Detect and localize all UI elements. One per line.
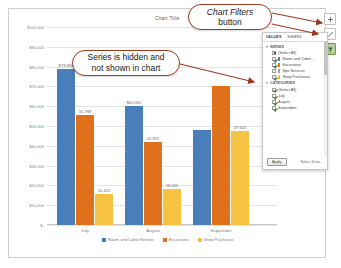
bar[interactable]: 55,788 — [76, 115, 94, 225]
bar-value-label: 15,455 — [98, 188, 111, 193]
series-color-swatch — [278, 69, 280, 73]
filter-row-label: August — [278, 100, 290, 104]
gridline — [47, 225, 277, 226]
checkbox[interactable] — [272, 88, 276, 92]
filter-row-label: July — [278, 94, 285, 98]
y-axis-tick: $90,000 — [29, 44, 44, 49]
tab-values[interactable]: VALUES — [266, 35, 282, 39]
plus-icon — [327, 16, 334, 23]
chart-elements-icon[interactable] — [324, 13, 336, 25]
select-data-link[interactable]: Select Data... — [300, 160, 323, 164]
legend-swatch — [102, 238, 106, 242]
y-axis-tick: $- — [40, 223, 44, 228]
filter-row-label: (Select All) — [278, 51, 296, 55]
y-axis-tick: $20,000 — [29, 183, 44, 188]
y-axis-tick: $70,000 — [29, 84, 44, 89]
y-axis-tick: $100,000 — [27, 25, 44, 30]
callout-hidden-series-line2: not shown in chart — [73, 63, 179, 74]
filter-section-title: CATEGORIES — [270, 81, 295, 85]
filter-pane-body: SERIES(Select All)Room and Cabin...Excur… — [263, 42, 327, 112]
bar[interactable] — [193, 130, 211, 225]
bar[interactable]: 47,655 — [231, 131, 249, 225]
callout-hidden-series-line1: Series is hidden and — [73, 52, 179, 63]
chevron-down-icon — [266, 82, 268, 84]
y-axis-tick: $40,000 — [29, 143, 44, 148]
filter-pane-tabs: VALUES NAMES — [263, 33, 327, 42]
x-axis-label: July — [81, 228, 89, 233]
legend-label: Shop Purchases — [204, 237, 234, 242]
series-color-swatch — [278, 63, 280, 67]
callout-hidden-series: Series is hidden and not shown in chart — [72, 50, 180, 76]
x-axis-label: August — [146, 228, 160, 233]
legend-item[interactable]: Excursions — [163, 237, 189, 242]
filter-pane-scrollbar[interactable] — [324, 41, 327, 157]
bar-value-label: 55,788 — [79, 109, 92, 114]
filter-row-label: Room and Cabin... — [282, 57, 314, 61]
tab-names[interactable]: NAMES — [288, 35, 302, 39]
legend-label: Room and Cabin Rentals — [108, 237, 154, 242]
filter-row-label: September — [278, 106, 297, 110]
y-axis-tick: $30,000 — [29, 163, 44, 168]
y-axis-tick: $80,000 — [29, 64, 44, 69]
filter-row-label: (Select All) — [278, 88, 296, 92]
callout-chart-filters-line2: button — [189, 17, 271, 27]
y-axis-tick: $60,000 — [29, 104, 44, 109]
filter-row-label: Spa Services — [282, 69, 304, 73]
y-axis-tick: $10,000 — [29, 203, 44, 208]
chart-legend: Room and Cabin RentalsExcursionsShop Pur… — [9, 237, 327, 242]
filter-row-label: Excursions — [282, 63, 301, 67]
bar[interactable] — [212, 86, 230, 225]
bar[interactable]: $78,980 — [57, 69, 75, 225]
legend-item[interactable]: Shop Purchases — [198, 237, 234, 242]
filter-pane-footer: Apply Select Data... — [263, 156, 327, 169]
bar-value-label: 18,055 — [166, 183, 179, 188]
checkbox[interactable] — [272, 57, 276, 61]
checkbox[interactable] — [272, 51, 276, 55]
series-color-swatch — [278, 75, 280, 79]
filter-row-label: Shop Purchases — [282, 75, 310, 79]
checkbox[interactable] — [272, 100, 276, 104]
checkbox[interactable] — [272, 75, 276, 79]
bar-group: 47,655September — [193, 27, 249, 225]
checkbox[interactable] — [272, 63, 276, 67]
chevron-down-icon — [266, 46, 268, 48]
screenshot-root: Chart Title $100,000$90,000$80,000$70,00… — [0, 0, 341, 268]
callout-chart-filters: Chart Filters button — [188, 4, 272, 30]
bar-value-label: $60,055 — [127, 100, 142, 105]
y-axis-tick: $50,000 — [29, 124, 44, 129]
bar[interactable]: 41,855 — [144, 142, 162, 225]
series-color-swatch — [278, 57, 280, 61]
checkbox[interactable] — [272, 94, 276, 98]
bar[interactable]: 15,455 — [95, 194, 113, 225]
legend-item[interactable]: Room and Cabin Rentals — [102, 237, 154, 242]
legend-label: Excursions — [169, 237, 189, 242]
bar-value-label: 41,855 — [147, 136, 160, 141]
legend-swatch — [163, 238, 167, 242]
legend-swatch — [198, 238, 202, 242]
filter-row[interactable]: September — [263, 105, 327, 111]
bar[interactable]: 18,055 — [163, 189, 181, 225]
x-axis-label: September — [210, 228, 231, 233]
apply-button[interactable]: Apply — [267, 158, 287, 166]
chart-filters-pane[interactable]: VALUES NAMES SERIES(Select All)Room and … — [262, 32, 328, 170]
bar-value-label: 47,655 — [234, 125, 247, 130]
page-title: Chart Title — [9, 15, 325, 21]
bar[interactable]: $60,055 — [125, 106, 143, 225]
filter-section-title: SERIES — [270, 45, 284, 49]
checkbox[interactable] — [272, 106, 276, 110]
checkbox[interactable] — [272, 69, 276, 73]
callout-chart-filters-line1: Chart Filters — [189, 7, 271, 17]
